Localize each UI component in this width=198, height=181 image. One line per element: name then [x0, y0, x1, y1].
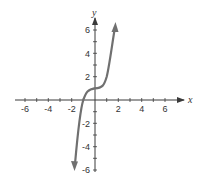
y-tick-label: -6 — [82, 165, 90, 175]
y-tick-label: 2 — [85, 72, 90, 82]
y-tick-label: 6 — [85, 25, 90, 35]
x-tick-label: 4 — [139, 104, 144, 114]
curve-arrow-up-icon — [112, 22, 119, 32]
x-tick-label: -2 — [68, 104, 76, 114]
y-axis-label: y — [91, 7, 97, 18]
curve-arrow-down-icon — [71, 161, 78, 171]
y-tick-label: 4 — [85, 49, 90, 59]
x-axis-label: x — [187, 94, 193, 105]
x-tick-label: -6 — [21, 104, 29, 114]
y-tick-label: -4 — [82, 142, 90, 152]
x-tick-label: 6 — [162, 104, 167, 114]
cubic-graph: -6 -4 -2 2 4 6 6 4 2 -2 -4 -6 x y — [0, 0, 198, 181]
x-tick-label: 2 — [116, 104, 121, 114]
y-tick-label: -2 — [82, 119, 90, 129]
x-tick-label: -4 — [44, 104, 52, 114]
